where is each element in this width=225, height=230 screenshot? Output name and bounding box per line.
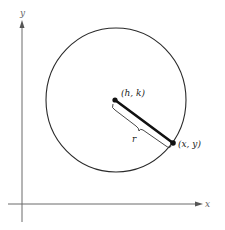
x-axis-arrow-icon bbox=[195, 202, 203, 207]
point-label: (x, y) bbox=[178, 139, 201, 149]
circle-diagram: y x r (h, k) (x, y) bbox=[0, 0, 225, 230]
radius-label: r bbox=[132, 134, 137, 144]
y-axis-label: y bbox=[19, 8, 26, 18]
circle-point bbox=[170, 140, 176, 146]
center-label: (h, k) bbox=[121, 88, 145, 98]
y-axis-arrow-icon bbox=[20, 20, 25, 28]
y-axis: y bbox=[19, 8, 26, 222]
radius-brace bbox=[112, 104, 171, 148]
radius-segment bbox=[115, 100, 173, 143]
center-point bbox=[112, 97, 117, 102]
x-axis: x bbox=[8, 199, 210, 209]
x-axis-label: x bbox=[205, 199, 210, 209]
